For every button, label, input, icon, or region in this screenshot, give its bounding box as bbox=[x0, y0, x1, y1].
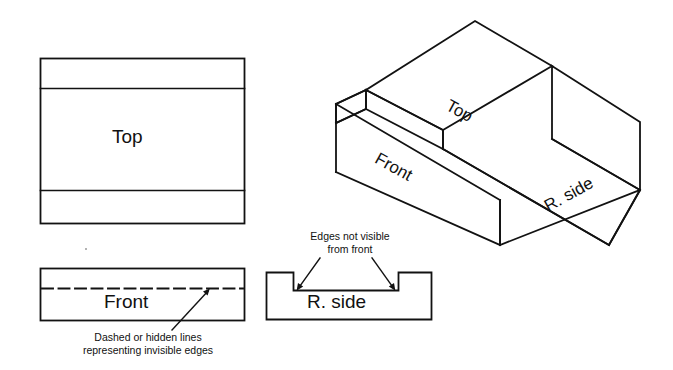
iso-right-rail bbox=[552, 66, 640, 190]
hidden-lines-caption: Dashed or hidden lines representing invi… bbox=[48, 331, 248, 357]
drawing-sheet: Top Front R. side Dashed or hidden lines… bbox=[0, 0, 673, 370]
edges-arrow-right bbox=[372, 258, 395, 291]
hidden-lines-leader bbox=[172, 289, 210, 330]
right-side-view-label: R. side bbox=[307, 291, 366, 313]
edges-caption-line1: Edges not visible bbox=[288, 230, 412, 243]
edges-caption-line2: from front bbox=[288, 243, 412, 256]
iso-rear-rail bbox=[366, 21, 552, 149]
edges-not-visible-caption: Edges not visible from front bbox=[288, 230, 412, 256]
hidden-lines-caption-line1: Dashed or hidden lines bbox=[48, 331, 248, 344]
edges-arrow-left bbox=[297, 258, 320, 291]
paper-speck bbox=[85, 248, 87, 250]
top-view-label: Top bbox=[112, 126, 143, 148]
hidden-lines-caption-line2: representing invisible edges bbox=[48, 344, 248, 357]
front-view-label: Front bbox=[104, 291, 148, 313]
